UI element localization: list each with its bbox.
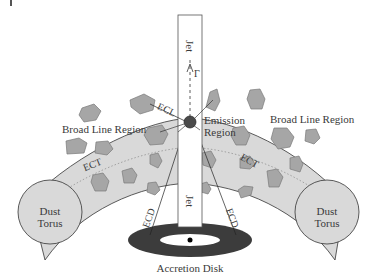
accretion-disk-label: Accretion Disk	[150, 262, 230, 274]
dust-torus-left-label-2: Torus	[30, 217, 70, 229]
emission-region	[184, 116, 196, 128]
corner-mark	[10, 0, 12, 6]
emission-region-label-2: Region	[204, 126, 236, 138]
dust-torus-left-label-1: Dust	[30, 205, 70, 217]
black-hole	[188, 238, 193, 243]
emission-region-label-1: Emission	[204, 114, 245, 126]
blr-left-label: Broad Line Region	[62, 123, 146, 135]
jet-label-top: Jet	[184, 40, 196, 52]
gamma-label: Γ	[194, 68, 200, 80]
jet-label-bottom: Jet	[184, 195, 196, 207]
dust-torus-right-label-1: Dust	[307, 205, 347, 217]
agn-diagram: Jet Jet Γ Emission Region Broad Line Reg…	[0, 0, 376, 279]
dust-torus-right-label-2: Torus	[307, 217, 347, 229]
blr-right-label: Broad Line Region	[270, 113, 354, 125]
